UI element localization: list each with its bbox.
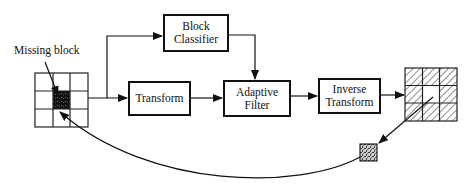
arrow-classifier-to-filter: [228, 35, 255, 79]
missing-block-label: Missing block: [14, 44, 80, 56]
arrow-feedback-to-missing: [60, 112, 360, 178]
recovered-block: [360, 144, 377, 161]
transform-box: Transform: [128, 81, 191, 116]
block-classifier-line2: Classifier: [174, 33, 218, 46]
transform-label: Transform: [135, 92, 183, 105]
adaptive-filter-line2: Filter: [245, 99, 270, 112]
inverse-transform-box: Inverse Transform: [318, 78, 381, 114]
block-classifier-box: Block Classifier: [163, 14, 229, 52]
block-classifier-line1: Block: [182, 20, 209, 33]
adaptive-filter-line1: Adaptive: [236, 86, 278, 99]
output-grid: [405, 68, 457, 121]
adaptive-filter-box: Adaptive Filter: [223, 80, 291, 117]
missing-block-pointer: [45, 62, 58, 95]
inverse-transform-line2: Transform: [325, 96, 373, 109]
inverse-transform-line1: Inverse: [333, 83, 367, 96]
input-grid: [35, 73, 88, 127]
